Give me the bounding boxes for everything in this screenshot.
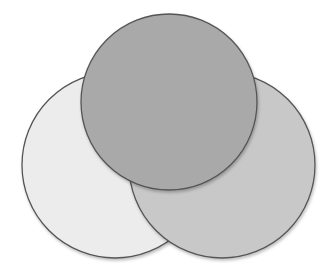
diagram-svg bbox=[0, 0, 332, 273]
circles-group bbox=[22, 14, 315, 258]
venn-diagram bbox=[0, 0, 332, 273]
circle-top bbox=[81, 14, 257, 190]
